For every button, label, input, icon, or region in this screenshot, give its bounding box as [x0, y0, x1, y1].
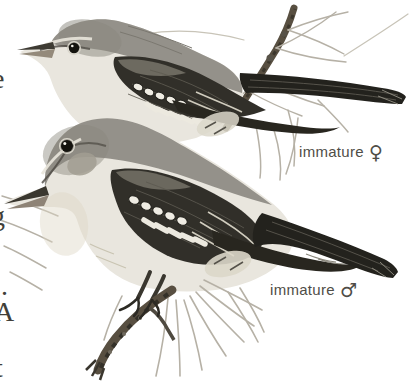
immature-female-label: immature♀ [299, 141, 383, 163]
immature-male-text: immature [270, 281, 335, 298]
margin-letter-fragment: A [0, 298, 14, 326]
margin-letter-fragment: e [0, 65, 4, 93]
plate-illustration-svg [0, 0, 413, 381]
margin-letter-fragment: g [0, 202, 5, 230]
immature-male-label: immature♂ [270, 279, 357, 301]
immature-female-text: immature [299, 143, 364, 160]
margin-letter-fragment: t [0, 354, 3, 381]
top-bird-eye [69, 43, 79, 53]
scanned-plate: immature♀ immature♂ - e g - . A - t [0, 0, 413, 381]
pine-needles-mid [256, 100, 348, 180]
top-bird-bill [17, 42, 55, 50]
bottom-bird-eye [61, 140, 73, 152]
male-symbol: ♂ [340, 279, 357, 301]
female-symbol: ♀ [369, 141, 383, 163]
